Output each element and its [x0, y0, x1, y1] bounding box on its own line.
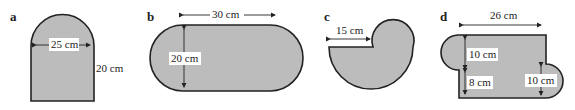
- figure-d-letter: d: [440, 9, 448, 24]
- figure-a-letter: a: [10, 9, 17, 24]
- figure-b-letter: b: [147, 9, 154, 24]
- figure-d-width-label: 26 cm: [490, 9, 518, 21]
- figure-c: c 15 cm: [324, 9, 414, 89]
- figure-a-shape: [31, 15, 94, 102]
- figure-a: a 25 cm 20 cm: [10, 9, 124, 101]
- figure-c-letter: c: [324, 9, 330, 24]
- shapes-diagram: a 25 cm 20 cm b 30 cm 20 cm c 15 cm d 26…: [0, 0, 575, 110]
- figure-d-upper-label: 10 cm: [469, 48, 497, 60]
- figure-d-lower-label: 8 cm: [469, 76, 491, 88]
- figure-b: b 30 cm 20 cm: [147, 8, 303, 91]
- figure-c-radius-label: 15 cm: [336, 24, 364, 36]
- figure-a-width-label: 25 cm: [51, 38, 79, 50]
- figure-d: d 26 cm 10 cm 8 cm 10 cm: [440, 9, 563, 98]
- figure-b-length-label: 30 cm: [212, 8, 240, 20]
- figure-b-height-label: 20 cm: [171, 52, 199, 64]
- figure-a-height-label: 20 cm: [96, 62, 124, 74]
- figure-d-shape: [441, 35, 563, 98]
- figure-d-right-label: 10 cm: [527, 74, 555, 86]
